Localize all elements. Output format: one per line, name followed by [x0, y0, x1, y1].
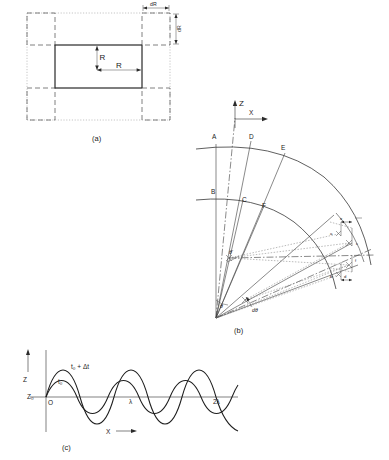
panel-c-caption: (c) — [62, 443, 71, 452]
panel-b-point-c-prime-label: c — [356, 241, 358, 246]
panel-b-point-c-label: C — [242, 196, 247, 203]
panel-b-center-axis — [216, 118, 235, 318]
panel-c-shifted-curve-label: t₀ + Δt — [71, 363, 89, 370]
panel-c: Z t₀ + Δt t₀ Z₀ O λ 2λ X (c) — [23, 349, 238, 452]
panel-b-point-f-label: F — [262, 202, 266, 209]
panel-a-radius-vertical-dim — [95, 46, 99, 70]
panel-b-point-d-label: D — [249, 133, 254, 140]
panel-a-thickness-top-label: dR — [150, 1, 157, 7]
panel-b-point-f-prime-label: f — [355, 258, 357, 263]
panel-b-point-b-label: B — [211, 188, 215, 195]
panel-a-caption: (a) — [92, 134, 102, 143]
panel-b-radial-rays — [216, 141, 358, 318]
panel-b-x-axis — [235, 117, 268, 121]
panel-a-radius-horizontal-label: R — [116, 61, 122, 70]
figure-canvas: R R dR dR (a) — [0, 0, 389, 460]
panel-c-z-axis — [26, 349, 30, 372]
panel-c-baseline-label: Z₀ — [27, 393, 34, 400]
panel-b-theta-label: θ — [220, 303, 223, 309]
panel-c-wave-shifted — [46, 370, 238, 431]
panel-b-point-a-label: A — [212, 133, 217, 140]
panel-a-corner-blocks — [27, 13, 170, 120]
panel-b-z-axis-label: Z — [239, 99, 244, 108]
panel-b: Z X — [196, 99, 375, 335]
panel-c-x-axis-arrow — [116, 429, 137, 433]
panel-a-outer-boundary — [27, 13, 170, 120]
panel-b-caption: (b) — [234, 326, 244, 335]
panel-c-x-tick-two-lambda: 2λ — [213, 398, 221, 405]
panel-b-cluster-dimensions — [341, 221, 352, 281]
panel-b-x-axis-label: X — [249, 109, 254, 116]
panel-b-tick-marks — [226, 231, 352, 303]
panel-b-dtheta-label: dθ — [252, 307, 258, 313]
panel-a-radius-vertical-label: R — [100, 53, 106, 62]
panel-c-z-axis-label: Z — [23, 376, 27, 383]
panel-c-x-tick-lambda: λ — [129, 398, 133, 405]
panel-c-origin-label: O — [48, 399, 53, 406]
panel-b-point-e-label: E — [281, 144, 286, 151]
panel-b-point-d-prime-label: d — [344, 274, 347, 279]
panel-b-z-axis — [233, 100, 237, 128]
panel-a: R R dR dR (a) — [27, 1, 182, 143]
panel-b-cluster-verticals — [341, 218, 362, 280]
panel-c-reference-curve-label: t₀ — [58, 378, 63, 385]
panel-b-inner-arc — [196, 199, 336, 289]
panel-a-inner-rectangle — [55, 45, 142, 88]
panel-a-thickness-right-label: dR — [176, 25, 182, 32]
panel-c-x-axis-label: X — [106, 428, 111, 435]
panel-a-rectangle-edges — [55, 45, 142, 88]
panel-b-theta-prime-label: θ' — [229, 249, 234, 255]
